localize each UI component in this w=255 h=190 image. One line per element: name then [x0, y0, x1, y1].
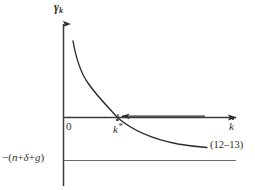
y-axis-label-subscript: k: [59, 6, 63, 15]
x-axis-label-dot-accent: [232, 118, 234, 120]
x-axis-label: k: [229, 121, 234, 132]
y-axis-label: γk: [54, 1, 63, 15]
equation-reference: (12–13): [210, 140, 243, 151]
steady-state-label: k*: [113, 122, 122, 135]
growth-rate-diagram: γk 0 k* k −(n+δ+g) (12–13): [0, 0, 255, 190]
steady-state-star: *: [118, 121, 123, 131]
asymptote-label: −(n+δ+g): [2, 152, 44, 163]
origin-label: 0: [66, 121, 72, 132]
asymptote-close: ): [40, 151, 44, 163]
growth-rate-curve: [73, 41, 207, 148]
asymptote-minus-open: −(: [2, 151, 12, 163]
steady-state-dot-accent: [116, 119, 118, 121]
